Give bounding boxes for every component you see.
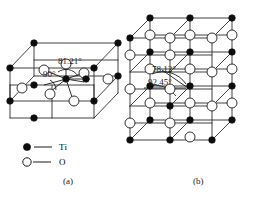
legend-marker-ti-filled-circle (22, 141, 56, 153)
angle-label-b-1: 78.12° (152, 64, 176, 74)
legend: Ti O (22, 139, 67, 169)
legend-label-ti: Ti (59, 142, 67, 152)
caption-panel-a: (a) (63, 176, 73, 186)
panel-a-diagram (0, 18, 132, 130)
panel-b-diagram (128, 8, 264, 168)
angle-label-b-2: 92.45° (148, 77, 172, 87)
angle-label-a-1: 81.21° (58, 56, 82, 66)
caption-panel-b: (b) (193, 176, 204, 186)
legend-marker-o-open-circle (22, 156, 56, 168)
angle-label-a-2: 90° (43, 69, 56, 79)
legend-item-ti: Ti (22, 139, 67, 154)
legend-item-o: O (22, 154, 67, 169)
legend-label-o: O (59, 157, 66, 167)
figure-root: 81.21° 90° (0, 0, 264, 202)
